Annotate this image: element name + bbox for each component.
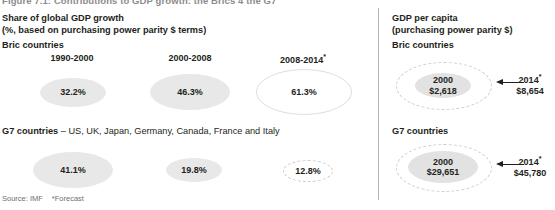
bric-bubble-2008-2014: 61.3%	[256, 69, 352, 115]
bric-bubble-2000-2008: 46.3%	[150, 74, 230, 110]
g7-percapita-inner-bubble-2000: 2000 $29,651	[408, 151, 478, 183]
g7-bubble-2008-2014: 12.8%	[283, 160, 333, 182]
g7-percapita-2014-year-text: 2014	[519, 157, 539, 167]
left-panel-title-line2: (%, based on purchasing power parity $ t…	[2, 25, 206, 37]
forecast-marker-period: *	[323, 53, 326, 60]
figure-caption: Figure 7.1: Contributions to GDP growth:…	[2, 0, 276, 6]
bric-percapita-2014-value: $8,654	[506, 86, 554, 97]
g7-countries-heading-rest: – US, UK, Japan, Germany, Canada, France…	[58, 126, 279, 136]
g7-percapita-2014-year: 2014*	[504, 154, 555, 168]
bric-percapita-2000-value: $2,618	[429, 86, 457, 97]
right-g7-countries-heading: G7 countries	[392, 126, 448, 136]
bric-countries-heading: Bric countries	[2, 40, 64, 50]
bric-percapita-2014-year: 2014*	[506, 72, 554, 86]
left-panel-title: Share of global GDP growth (%, based on …	[2, 13, 206, 36]
g7-countries-heading: G7 countries – US, UK, Japan, Germany, C…	[2, 126, 280, 136]
bric-percapita-2000-group: 2000 $2,618	[429, 75, 457, 96]
forecast-note: *Forecast	[52, 194, 84, 203]
g7-bubble-1990-2000: 41.1%	[33, 152, 113, 188]
g7-percapita-2014-value: $45,780	[504, 168, 555, 179]
period-label-2008-2014-text: 2008-2014	[280, 55, 323, 65]
figure-container: Figure 7.1: Contributions to GDP growth:…	[0, 0, 555, 210]
period-label-2000-2008: 2000-2008	[148, 53, 232, 63]
panel-divider	[378, 8, 379, 200]
g7-countries-heading-bold: G7 countries	[2, 126, 58, 136]
period-label-2008-2014: 2008-2014*	[255, 53, 351, 65]
bric-bubble-1990-2000: 32.2%	[40, 78, 106, 107]
source-text: Source: IMF	[2, 194, 43, 203]
right-panel-title-line2: (purchasing power parity $)	[392, 25, 512, 37]
bric-percapita-2014-year-text: 2014	[519, 75, 539, 85]
bric-forecast-marker: *	[539, 73, 542, 80]
right-panel-title-line1: GDP per capita	[392, 13, 512, 25]
g7-percapita-2014-label: 2014* $45,780	[504, 154, 555, 178]
period-label-1990-2000: 1990-2000	[30, 53, 114, 63]
right-bric-countries-heading: Bric countries	[392, 40, 454, 50]
g7-percapita-2000-value: $29,651	[427, 167, 460, 178]
bric-percapita-inner-bubble-2000: 2000 $2,618	[415, 73, 471, 98]
g7-forecast-marker: *	[539, 155, 542, 162]
right-panel-title: GDP per capita (purchasing power parity …	[392, 13, 512, 36]
source-note: Source: IMF*Forecast	[2, 194, 84, 203]
left-panel-title-line1: Share of global GDP growth	[2, 13, 206, 25]
g7-bubble-2000-2008: 19.8%	[166, 158, 222, 182]
bric-percapita-2014-label: 2014* $8,654	[506, 72, 554, 96]
g7-percapita-2000-year: 2000	[427, 157, 460, 168]
g7-percapita-2000-group: 2000 $29,651	[427, 157, 460, 178]
bric-percapita-2000-year: 2000	[429, 75, 457, 86]
